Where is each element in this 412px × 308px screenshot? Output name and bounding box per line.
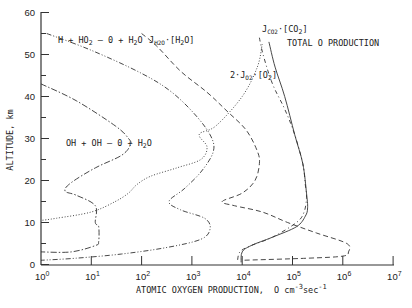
y-tick-label: 50 [24,49,35,60]
x-tick-label: 105 [287,270,302,282]
x-tick-label: 101 [85,270,100,282]
x-tick-label: 106 [337,270,352,282]
y-tick-label: 20 [24,175,35,186]
svg-text:ATOMIC OXYGEN PRODUCTION,: ATOMIC OXYGEN PRODUCTION, O cm-3sec-1 [136,283,327,295]
y-tick-label: 60 [24,7,35,18]
y-ticks: 0102030405060 [24,7,49,270]
label-total: TOTAL O PRODUCTION [287,38,379,48]
label-jco2: JCO2·[CO2] [262,24,308,36]
x-tick-label: 107 [387,270,402,282]
x-ticks: 100101102103104105106107 [35,256,402,282]
y-tick-label: 30 [24,133,35,144]
x-tick-label: 104 [236,270,251,282]
x-axis-label-main: ATOMIC OXYGEN PRODUCTION, [136,285,264,295]
y-tick-label: 40 [24,91,35,102]
label-oh-oh: OH + OH — 0 + H2O [66,138,152,150]
label-h-ho2: H + HO2 — 0 + H2O [58,35,143,47]
curve-oh-oh-o-h2o [41,84,131,252]
altitude-production-chart: 0102030405060 100101102103104105106107 A… [0,0,412,308]
x-axis-label: ATOMIC OXYGEN PRODUCTION, O cm-3sec-1 [136,283,327,295]
annotations: H + HO2 — 0 + H2O OH + OH — 0 + H2O JH2O… [58,24,379,150]
y-tick-label: 10 [24,217,35,228]
y-axis-label: ALTITUDE, km [5,109,15,170]
x-axis-label-unit: O cm [274,285,294,295]
x-tick-label: 100 [35,270,50,282]
label-jo2: 2·JO2·[O2] [230,70,277,82]
y-tick-label: 0 [30,259,35,270]
x-tick-label: 102 [136,270,151,282]
x-tick-label: 103 [186,270,201,282]
curve-j-h2o-h2o [142,34,350,261]
label-jh2o: JH2O·[H2O] [149,35,195,47]
